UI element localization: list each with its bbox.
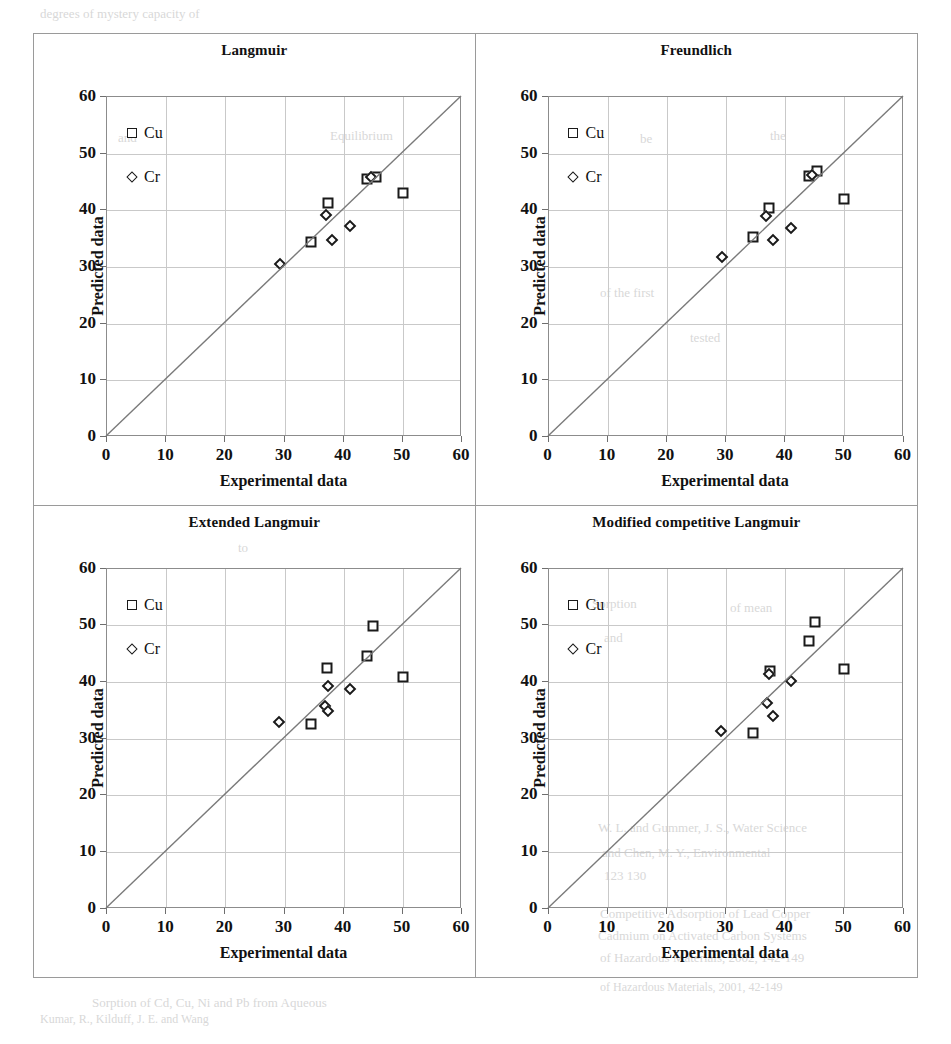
y-axis-tick-label: 0 [88, 898, 97, 918]
y-axis-tick [542, 96, 548, 97]
y-axis-tick-label: 10 [521, 841, 538, 861]
x-axis-tick [224, 908, 225, 914]
x-axis-tick [106, 436, 107, 442]
y-axis-tick [100, 323, 106, 324]
x-axis-tick [725, 436, 726, 442]
y-axis-tick [100, 96, 106, 97]
x-axis-tick [402, 436, 403, 442]
x-axis-tick [284, 436, 285, 442]
y-axis-tick-label: 10 [521, 369, 538, 389]
figure-panel-grid: Langmuir CuCr01020304050600102030405060E… [33, 33, 918, 978]
x-axis-tick-label: 50 [835, 445, 852, 465]
x-axis-tick-label: 30 [717, 917, 734, 937]
y-axis-tick-label: 50 [79, 614, 96, 634]
y-axis-tick-label: 60 [79, 558, 96, 578]
x-axis-tick [725, 908, 726, 914]
y-axis-tick [542, 209, 548, 210]
chart-title: Langmuir [34, 42, 475, 59]
identity-reference-line [548, 568, 903, 908]
x-axis-tick-label: 20 [216, 445, 233, 465]
x-axis-tick-label: 40 [334, 917, 351, 937]
y-axis-tick [100, 851, 106, 852]
y-axis-tick [542, 624, 548, 625]
chart-panel-freundlich: Freundlich CuCr0102030405060010203040506… [476, 34, 918, 506]
chart-area: CuCr01020304050600102030405060Experiment… [548, 96, 903, 436]
x-axis-tick-label: 0 [543, 445, 552, 465]
x-axis-tick-label: 40 [776, 445, 793, 465]
x-axis-tick-label: 0 [102, 917, 111, 937]
x-axis-tick-label: 10 [157, 917, 174, 937]
x-axis-tick [666, 436, 667, 442]
y-axis-tick-label: 60 [521, 86, 538, 106]
identity-reference-line [548, 96, 903, 436]
x-axis-tick [548, 436, 549, 442]
y-axis-title: Predicted data [89, 216, 107, 316]
identity-reference-line [106, 96, 461, 436]
y-axis-tick [100, 153, 106, 154]
x-axis-tick [461, 436, 462, 442]
x-axis-tick [843, 908, 844, 914]
x-axis-tick-label: 60 [453, 917, 470, 937]
showthrough-line: Sorption of Cd, Cu, Ni and Pb from Aqueo… [92, 995, 327, 1011]
chart-title: Extended Langmuir [34, 514, 475, 531]
chart-panel-modified-competitive-langmuir: Modified competitive Langmuir CuCr010203… [476, 506, 918, 978]
x-axis-tick [666, 908, 667, 914]
chart-area: CuCr01020304050600102030405060Experiment… [106, 568, 461, 908]
y-axis-tick-label: 0 [529, 426, 538, 446]
y-axis-tick-label: 10 [79, 841, 96, 861]
chart-title: Freundlich [476, 42, 918, 59]
x-axis-tick-label: 0 [102, 445, 111, 465]
y-axis-tick-label: 50 [79, 143, 96, 163]
y-axis-tick [100, 209, 106, 210]
x-axis-tick-label: 30 [275, 445, 292, 465]
x-axis-tick-label: 60 [453, 445, 470, 465]
identity-reference-line [106, 568, 461, 908]
chart-title: Modified competitive Langmuir [476, 514, 918, 531]
x-axis-tick-label: 20 [657, 917, 674, 937]
x-axis-tick-label: 40 [334, 445, 351, 465]
x-axis-tick [165, 436, 166, 442]
y-axis-tick-label: 60 [79, 86, 96, 106]
x-axis-tick-label: 30 [717, 445, 734, 465]
chart-panel-langmuir: Langmuir CuCr01020304050600102030405060E… [34, 34, 476, 506]
y-axis-tick [100, 681, 106, 682]
y-axis-tick-label: 10 [79, 369, 96, 389]
x-axis-tick-label: 20 [657, 445, 674, 465]
y-axis-tick [542, 568, 548, 569]
x-axis-tick [784, 908, 785, 914]
x-axis-tick-label: 20 [216, 917, 233, 937]
y-axis-tick-label: 50 [521, 614, 538, 634]
x-axis-tick [784, 436, 785, 442]
x-axis-tick [607, 436, 608, 442]
y-axis-tick [542, 153, 548, 154]
x-axis-title: Experimental data [548, 944, 903, 962]
x-axis-tick-label: 10 [598, 445, 615, 465]
x-axis-tick-label: 50 [835, 917, 852, 937]
x-axis-tick [903, 436, 904, 442]
x-axis-tick [224, 436, 225, 442]
x-axis-tick [843, 436, 844, 442]
x-axis-title: Experimental data [106, 472, 461, 490]
x-axis-tick [402, 908, 403, 914]
showthrough-line: degrees of mystery capacity of [40, 6, 200, 22]
x-axis-tick [548, 908, 549, 914]
x-axis-title: Experimental data [548, 472, 903, 490]
y-axis-tick [100, 379, 106, 380]
y-axis-tick [100, 568, 106, 569]
x-axis-tick-label: 50 [393, 917, 410, 937]
y-axis-tick-label: 60 [521, 558, 538, 578]
x-axis-tick [284, 908, 285, 914]
x-axis-tick-label: 60 [894, 445, 911, 465]
y-axis-tick-label: 0 [529, 898, 538, 918]
x-axis-tick [343, 436, 344, 442]
y-axis-title: Predicted data [530, 216, 548, 316]
y-axis-title: Predicted data [89, 688, 107, 788]
y-axis-tick [542, 794, 548, 795]
x-axis-tick [106, 908, 107, 914]
x-axis-tick-label: 40 [776, 917, 793, 937]
x-axis-tick [343, 908, 344, 914]
showthrough-line: Kumar, R., Kilduff, J. E. and Wang [40, 1012, 209, 1027]
x-axis-tick-label: 50 [393, 445, 410, 465]
x-axis-tick [903, 908, 904, 914]
showthrough-line: of Hazardous Materials, 2001, 42-149 [600, 980, 783, 995]
